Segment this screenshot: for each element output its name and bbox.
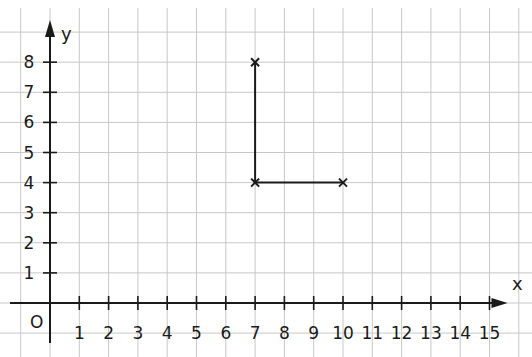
x-tick-label: 3 bbox=[132, 323, 143, 343]
y-tick-label: 2 bbox=[24, 233, 35, 253]
x-tick-label: 14 bbox=[449, 323, 471, 343]
x-tick-label: 13 bbox=[420, 323, 442, 343]
x-tick-label: 9 bbox=[308, 323, 319, 343]
x-tick-label: 15 bbox=[479, 323, 501, 343]
x-axis-label: x bbox=[512, 273, 523, 294]
y-tick-label: 7 bbox=[24, 82, 35, 102]
x-tick-label: 8 bbox=[279, 323, 290, 343]
y-axis-arrow-icon bbox=[45, 20, 55, 37]
x-tick-label: 6 bbox=[220, 323, 231, 343]
y-tick-label: 6 bbox=[24, 112, 35, 132]
x-axis-arrow-icon bbox=[492, 298, 508, 308]
x-tick-label: 2 bbox=[103, 323, 114, 343]
coordinate-plane: 12345678910111213141512345678 x y O bbox=[0, 0, 532, 357]
tick-labels: 12345678910111213141512345678 bbox=[24, 52, 501, 343]
x-tick-label: 4 bbox=[162, 323, 173, 343]
axes bbox=[10, 20, 508, 343]
x-tick-label: 7 bbox=[250, 323, 261, 343]
x-tick-label: 10 bbox=[332, 323, 354, 343]
y-tick-label: 5 bbox=[24, 143, 35, 163]
y-tick-label: 4 bbox=[24, 173, 35, 193]
x-tick-label: 5 bbox=[191, 323, 202, 343]
y-tick-label: 8 bbox=[24, 52, 35, 72]
x-tick-label: 1 bbox=[74, 323, 85, 343]
x-tick-label: 12 bbox=[391, 323, 413, 343]
y-tick-label: 1 bbox=[24, 263, 35, 283]
x-tick-label: 11 bbox=[361, 323, 383, 343]
y-tick-label: 3 bbox=[24, 203, 35, 223]
y-axis-label: y bbox=[61, 23, 72, 44]
origin-label: O bbox=[30, 312, 43, 332]
